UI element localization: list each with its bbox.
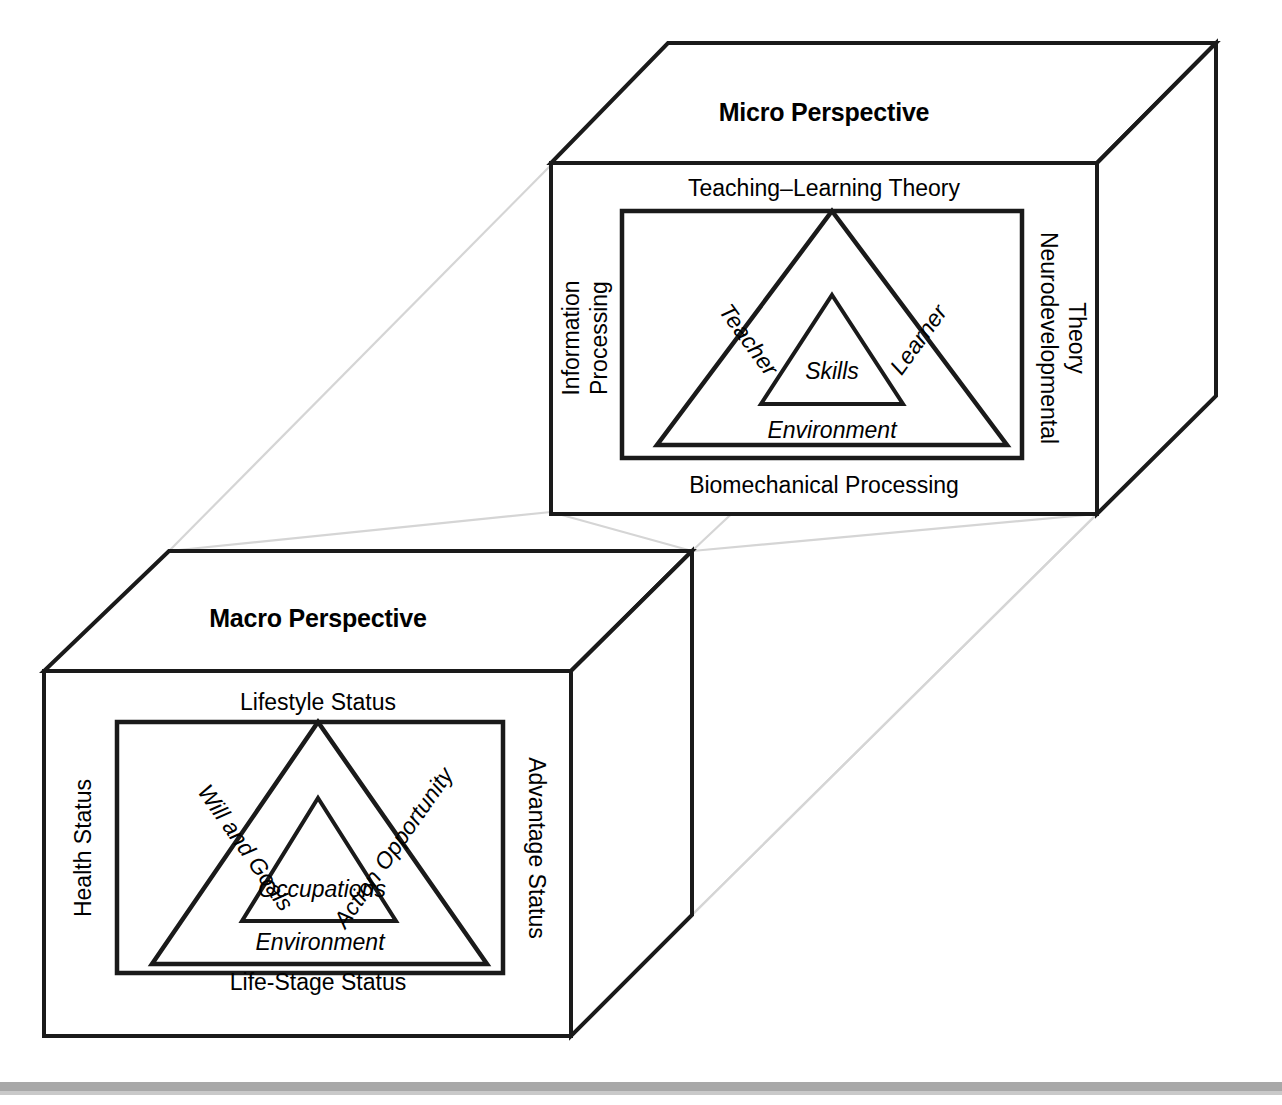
baseline-bar [0, 1082, 1282, 1091]
connector-line-right-top [692, 514, 1097, 551]
macro-bottom-label: Life-Stage Status [230, 970, 406, 996]
macro-right-label: Advantage Status [523, 757, 549, 939]
micro-triangle-core-label: Skills [805, 359, 859, 385]
micro-left-label-line1: Information [559, 280, 585, 395]
micro-bottom-label: Biomechanical Processing [689, 473, 959, 499]
micro-cube-front-face [551, 163, 1097, 514]
figure-canvas: Micro Perspective Teaching–Learning Theo… [0, 0, 1282, 1105]
baseline-bar-shadow [0, 1091, 1282, 1095]
macro-triangle-core-label: Occupations [258, 877, 386, 903]
connector-line-left [169, 512, 551, 551]
micro-triangle-base-label: Environment [767, 418, 896, 444]
macro-perspective-title: Macro Perspective [209, 604, 427, 632]
micro-right-label-line2: Theory [1063, 302, 1089, 374]
micro-perspective-title: Micro Perspective [719, 98, 930, 126]
micro-top-label: Teaching–Learning Theory [688, 176, 960, 202]
connector-line-left-join [551, 512, 692, 551]
macro-top-label: Lifestyle Status [240, 690, 396, 716]
macro-left-label: Health Status [71, 779, 97, 917]
baseline-bar-group [0, 1082, 1282, 1095]
micro-right-label-line1: Neurodevelopmental [1035, 232, 1061, 444]
connector-diag-left-long [169, 160, 556, 551]
micro-left-label-line2: Processing [587, 281, 613, 395]
figure-geometry [0, 0, 1282, 1105]
macro-triangle-base-label: Environment [255, 930, 384, 956]
